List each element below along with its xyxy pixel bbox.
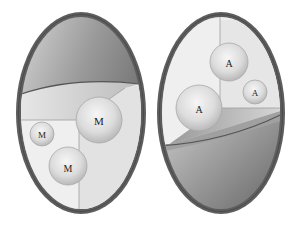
sphere-a-large: A: [176, 85, 222, 131]
sphere-label: M: [38, 130, 46, 140]
sphere-a-top: A: [210, 43, 248, 81]
left-egg: M M M: [16, 12, 146, 220]
egg-diagram: M M M A: [0, 0, 300, 226]
sphere-m-small: M: [30, 122, 54, 146]
sphere-m-large: M: [76, 97, 122, 143]
sphere-label: M: [94, 115, 104, 127]
sphere-m-medium: M: [49, 147, 87, 185]
right-egg: A A A: [157, 0, 290, 214]
sphere-label: M: [64, 163, 73, 174]
sphere-label: A: [195, 104, 203, 115]
sphere-a-small: A: [243, 80, 267, 104]
sphere-label: A: [225, 58, 233, 69]
sphere-label: A: [252, 88, 259, 98]
